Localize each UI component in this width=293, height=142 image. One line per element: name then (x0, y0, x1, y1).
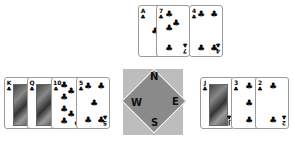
club-icon: ♣ (245, 82, 253, 91)
card-index: J♣ (202, 80, 208, 92)
club-icon: ♣ (97, 82, 105, 91)
club-icon: ♣ (140, 14, 146, 20)
club-icon: ♣ (6, 86, 12, 92)
card-index: 7♣ (158, 8, 164, 20)
club-icon: ♣ (158, 14, 164, 20)
club-icon: ♣ (245, 116, 253, 125)
compass-south-label: S (151, 117, 158, 128)
club-icon: ♣ (197, 44, 205, 53)
card-index: Q♣ (29, 80, 35, 92)
club-icon: ♣ (165, 44, 173, 53)
club-icon: ♣ (269, 82, 277, 91)
card-index: 4♣ (215, 42, 221, 54)
club-icon: ♣ (165, 24, 173, 33)
club-icon: ♣ (60, 117, 68, 126)
west-hand: K♣ K♣ Q♣ Q♣ 10♣ ♣ ♣ ♣ ♣ ♣ ♣ 10♣ 5♣ ♣ ♣ ♣… (4, 77, 109, 130)
club-icon: ♣ (233, 86, 239, 92)
club-icon: ♣ (84, 82, 92, 91)
card-index: K♣ (6, 80, 12, 92)
card-index: 5♣ (102, 114, 108, 126)
card-north-2[interactable]: 4♣ ♣ ♣ ♣ ♣ 4♣ (189, 5, 223, 57)
card-index: 2♣ (257, 80, 263, 92)
club-icon: ♣ (84, 116, 92, 125)
club-icon: ♣ (257, 86, 263, 92)
card-index: 2♣ (281, 114, 287, 126)
north-hand: A♣ ♣ A♣ 7♣ ♣ ♣ ♣ ♣ 7♣ 4♣ ♣ ♣ ♣ ♣ 4♣ (138, 5, 223, 58)
club-icon: ♣ (102, 114, 108, 120)
club-icon: ♣ (53, 86, 59, 92)
club-icon: ♣ (172, 19, 180, 28)
card-east-0[interactable]: J♣ J♣ (200, 77, 234, 129)
club-icon: ♣ (281, 114, 287, 120)
club-icon: ♣ (67, 87, 75, 96)
club-icon: ♣ (202, 86, 208, 92)
card-west-3[interactable]: 5♣ ♣ ♣ ♣ ♣ ♣ 5♣ (76, 77, 110, 129)
club-icon: ♣ (182, 42, 188, 48)
club-icon: ♣ (60, 93, 68, 102)
club-icon: ♣ (90, 99, 98, 108)
club-icon: ♣ (67, 110, 75, 119)
card-north-1[interactable]: 7♣ ♣ ♣ ♣ ♣ 7♣ (156, 5, 190, 57)
compass-east-label: E (172, 96, 179, 107)
club-icon: ♣ (197, 10, 205, 19)
card-index: A♣ (140, 8, 146, 20)
card-index: 7♣ (182, 42, 188, 54)
east-hand: J♣ J♣ 3♣ ♣ ♣ ♣ 3♣ 2♣ ♣ ♣ 2♣ (200, 77, 289, 130)
card-index: 10♣ (53, 80, 59, 92)
compass-west-label: W (131, 97, 142, 108)
card-east-2[interactable]: 2♣ ♣ ♣ 2♣ (255, 77, 289, 129)
card-index: 3♣ (233, 80, 239, 92)
club-icon: ♣ (29, 86, 35, 92)
club-icon: ♣ (245, 99, 253, 108)
club-icon: ♣ (215, 42, 221, 48)
compass-north-label: N (150, 71, 158, 82)
club-icon: ♣ (269, 116, 277, 125)
club-icon: ♣ (210, 10, 218, 19)
